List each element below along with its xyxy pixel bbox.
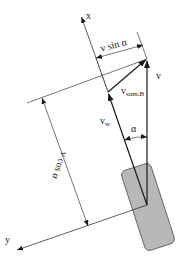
vsumB-vector: [108, 60, 146, 92]
y-axis: [17, 205, 147, 250]
alpha-label: α: [131, 123, 137, 134]
y-axis-label: y: [5, 234, 10, 245]
v-label: v: [156, 70, 161, 81]
vw-label: vw: [100, 115, 111, 128]
alpha-arc: [125, 137, 148, 140]
velocity-diagram: x y v vw vsum,B α v sin α v cos α: [0, 0, 186, 261]
x-axis-label: x: [86, 10, 91, 21]
v-cos-alpha-label: v cos α: [50, 150, 70, 181]
wheel: [120, 162, 175, 251]
vsumB-label: vsum,B: [121, 85, 144, 98]
v-sin-alpha-label: v sin α: [99, 36, 129, 54]
